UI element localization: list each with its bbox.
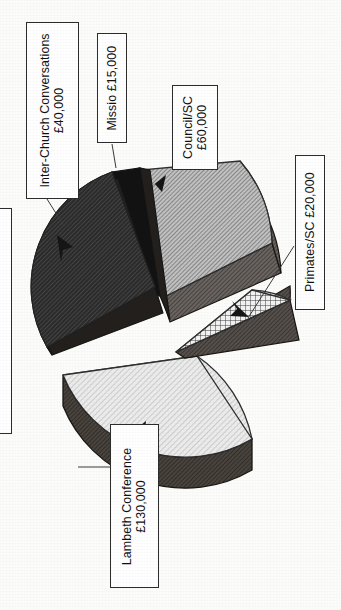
callout-inter-church-value: £40,000 [53, 33, 67, 187]
chart-canvas: Inter-Church Conversations £40,000 Missi… [0, 0, 341, 610]
callout-box-primates-sc[interactable]: Primates/SC £20,000 [295, 155, 325, 310]
callout-missio-text: Missio £15,000 [105, 46, 119, 131]
callout-council-title: Council/SC [181, 96, 195, 159]
leader-line-missio [112, 144, 116, 168]
callout-lambeth-title: Lambeth Conference [120, 447, 134, 565]
callout-inter-church-title: Inter-Church Conversations [38, 33, 52, 187]
callout-box-missio[interactable]: Missio £15,000 [97, 33, 127, 143]
callout-council-value: £60,000 [195, 96, 209, 159]
callout-box-cropped[interactable] [0, 208, 12, 434]
callout-box-inter-church-conversations[interactable]: Inter-Church Conversations £40,000 [26, 22, 79, 199]
callout-box-lambeth-conference[interactable]: Lambeth Conference £130,000 [110, 424, 159, 588]
callout-primates-text: Primates/SC £20,000 [303, 173, 317, 293]
callout-box-council-sc[interactable]: Council/SC £60,000 [172, 85, 218, 170]
callout-lambeth-value: £130,000 [135, 447, 149, 565]
